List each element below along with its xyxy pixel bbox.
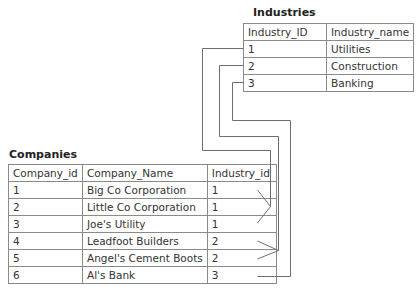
connector-industry-1	[203, 49, 271, 207]
connector-industry-3	[233, 83, 291, 277]
crows-foot-industry-2	[258, 241, 279, 259]
relationship-connectors	[0, 0, 417, 293]
connector-industry-2	[220, 66, 279, 251]
crows-foot-industry-1	[258, 190, 271, 223]
